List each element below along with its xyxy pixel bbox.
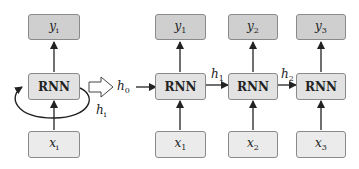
input-label: xi: [49, 136, 58, 152]
output-node-1: y1: [155, 14, 206, 40]
input-node-3: x3: [296, 131, 346, 158]
hidden-state-label-2: h2: [281, 67, 294, 83]
hidden-state-label-1: h1: [211, 67, 224, 83]
output-node-2: y2: [228, 14, 278, 40]
initial-state-label: h0: [117, 79, 130, 95]
recurrent-state-label: hi: [96, 103, 106, 119]
folded-output-node: yi: [28, 14, 80, 40]
output-label: yi: [49, 19, 58, 35]
input-node-1: x1: [155, 131, 206, 158]
unfold-arrow-icon: [89, 77, 113, 97]
rnn-cell-3: RNN: [296, 73, 346, 100]
input-node-2: x2: [228, 131, 278, 158]
rnn-diagram: yi RNN xi hi h0 y1 RNN x1 h1 y2 RNN x2 h…: [0, 0, 359, 169]
rnn-cell-1: RNN: [155, 73, 206, 100]
folded-rnn-cell: RNN: [28, 73, 80, 100]
output-node-3: y3: [296, 14, 346, 40]
folded-input-node: xi: [28, 131, 80, 158]
rnn-cell-2: RNN: [228, 73, 278, 100]
